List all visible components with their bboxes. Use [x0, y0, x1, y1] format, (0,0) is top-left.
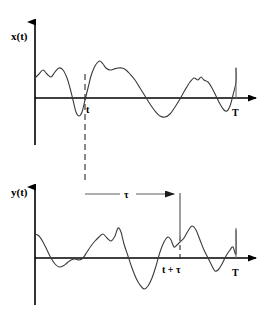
y-of-t-panel: y(t) t + τ T	[11, 186, 256, 305]
x-of-t-axis-label: x(t)	[11, 30, 28, 43]
x-of-t-panel: x(t) t T	[11, 22, 256, 180]
bottom-tick-label-T: T	[232, 267, 239, 278]
top-tick-label-T: T	[232, 107, 239, 118]
x-of-t-waveform	[35, 61, 236, 117]
lag-label-tau: τ	[124, 189, 129, 200]
figure-canvas: x(t) t T τ y(t) t + τ T	[0, 0, 270, 314]
bottom-tick-label-t-plus-tau: t + τ	[162, 264, 181, 275]
y-of-t-axis-label: y(t)	[11, 186, 28, 199]
correlation-figure: x(t) t T τ y(t) t + τ T	[0, 0, 270, 314]
lag-annotation: τ	[85, 186, 174, 200]
top-tick-label-t: t	[86, 104, 90, 115]
